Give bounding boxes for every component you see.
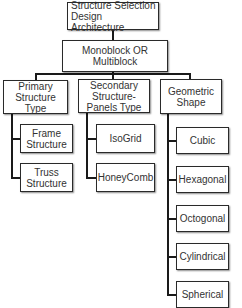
frame-structure-node: Frame Structure (20, 124, 73, 153)
monoblock-multiblock-node: Monoblock OR Multiblock (62, 40, 168, 72)
isogrid-node: IsoGrid (96, 124, 155, 153)
hexagonal-node: Hexagonal (176, 166, 229, 193)
octogonal-node: Octogonal (176, 205, 229, 232)
secondary-structure-panels-type-node: Secondary Structure-Panels Type (78, 79, 150, 113)
cylindrical-node: Cylindrical (176, 243, 229, 270)
truss-structure-node: Truss Structure (20, 163, 73, 192)
connector-secondary-spine (86, 113, 88, 179)
spherical-node: Spherical (176, 281, 229, 308)
root-node: Structure Selection Design Architecture (67, 2, 159, 30)
primary-structure-type-node: Primary Structure Type (3, 80, 68, 114)
cubic-node: Cubic (176, 127, 229, 154)
geometric-shape-node: Geometric Shape (160, 79, 222, 114)
connector-primary-spine (11, 114, 13, 179)
honeycomb-node: HoneyComb (96, 163, 155, 192)
